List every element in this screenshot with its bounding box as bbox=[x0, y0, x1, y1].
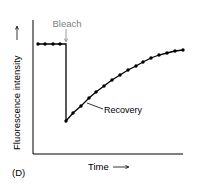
data-point bbox=[149, 56, 152, 59]
x-axis-label: Time bbox=[88, 161, 109, 172]
data-point bbox=[79, 104, 82, 107]
recovery-label: Recovery bbox=[104, 105, 143, 115]
data-point bbox=[51, 42, 54, 45]
data-point bbox=[141, 60, 144, 63]
data-point bbox=[36, 42, 39, 45]
data-point bbox=[134, 64, 137, 67]
panel-label: (D) bbox=[12, 167, 25, 178]
data-point bbox=[118, 73, 121, 76]
data-point bbox=[58, 42, 61, 45]
data-point bbox=[173, 49, 176, 52]
data-point bbox=[157, 53, 160, 56]
data-point bbox=[181, 48, 184, 51]
bleach-label: Bleach bbox=[52, 18, 81, 29]
frap-chart: Bleach Recovery Time Fluorescence intens… bbox=[0, 0, 197, 187]
data-point bbox=[43, 42, 46, 45]
data-point bbox=[102, 84, 105, 87]
recovery-leader-line bbox=[87, 103, 103, 109]
data-point bbox=[87, 96, 90, 99]
data-point bbox=[165, 51, 168, 54]
data-point bbox=[94, 90, 97, 93]
data-point bbox=[64, 119, 67, 122]
data-point bbox=[71, 111, 74, 114]
y-axis-label: Fluorescence intensity bbox=[11, 55, 22, 150]
data-point bbox=[126, 68, 129, 71]
data-point bbox=[110, 78, 113, 81]
